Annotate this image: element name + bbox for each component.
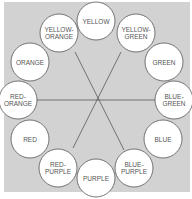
color-label: ORANGE <box>16 59 44 66</box>
color-label: RED <box>23 136 37 143</box>
color-label: GREEN <box>152 59 175 66</box>
color-label: YELLOW <box>82 18 109 25</box>
color-label: RED- ORANGE <box>4 93 32 107</box>
color-label: BLUE- GREEN <box>162 93 185 107</box>
color-label: YELLOW- GREEN <box>121 26 150 40</box>
color-label: RED- PURPLE <box>45 161 71 175</box>
color-label: YELLOW- ORANGE <box>44 26 73 40</box>
color-wheel-diagram: YELLOWYELLOW- GREENGREENBLUE- GREENBLUEB… <box>0 0 192 199</box>
color-label: PURPLE <box>83 175 109 182</box>
complement-line-yo-bp <box>75 52 124 150</box>
color-label: BLUE- PURPLE <box>121 161 147 175</box>
color-label: BLUE <box>155 136 172 143</box>
